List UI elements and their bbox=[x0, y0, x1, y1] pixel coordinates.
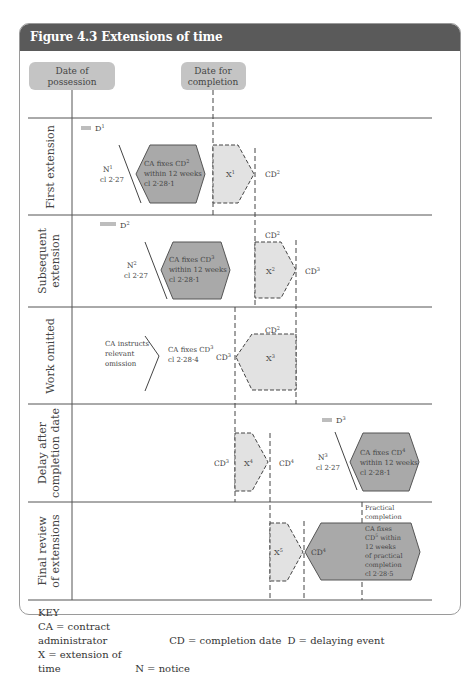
svg-text:cl 2·28·1: cl 2·28·1 bbox=[169, 276, 200, 284]
svg-text:CD5 within: CD5 within bbox=[365, 533, 401, 542]
delay-bar bbox=[81, 126, 91, 130]
row-delay-after-completion: CD3 X4 CD4 D3 N3 cl 2·27 CA fixes CD4 wi… bbox=[214, 415, 419, 491]
svg-text:cl 2·27: cl 2·27 bbox=[124, 272, 148, 280]
svg-text:completion: completion bbox=[365, 513, 402, 521]
key-ca: CA = contract administrator bbox=[38, 620, 166, 648]
row-label-subsequent-1: Subsequent bbox=[36, 227, 49, 294]
svg-text:CA fixes CD3: CA fixes CD3 bbox=[168, 344, 213, 354]
row-label-final-1: Final review bbox=[36, 516, 49, 586]
svg-text:cl 2·28·4: cl 2·28·4 bbox=[168, 356, 199, 364]
svg-text:CD3: CD3 bbox=[216, 352, 231, 362]
svg-text:D1: D1 bbox=[95, 123, 105, 133]
svg-text:relevant: relevant bbox=[105, 350, 135, 358]
row-label-delay-2: completion date bbox=[49, 408, 62, 498]
svg-text:N3: N3 bbox=[318, 452, 328, 462]
svg-text:cl 2·28·1: cl 2·28·1 bbox=[144, 180, 175, 188]
key-cd: CD = completion date bbox=[169, 634, 284, 648]
svg-text:omission: omission bbox=[105, 360, 137, 368]
svg-text:D3: D3 bbox=[336, 415, 346, 425]
svg-text:within 12 weeks: within 12 weeks bbox=[360, 459, 418, 467]
svg-text:12 weeks: 12 weeks bbox=[365, 543, 396, 551]
key-x: X = extension of time bbox=[38, 648, 132, 674]
svg-text:CD4: CD4 bbox=[279, 458, 294, 468]
svg-text:CA instructs: CA instructs bbox=[105, 340, 149, 348]
key-row-2: X = extension of time N = notice bbox=[38, 648, 384, 674]
svg-text:cl 2·28·1: cl 2·28·1 bbox=[360, 469, 391, 477]
row-label-subsequent-2: extension bbox=[49, 234, 62, 288]
row-label-omitted: Work omitted bbox=[44, 318, 57, 394]
delay-bar bbox=[322, 418, 332, 422]
svg-text:CD3: CD3 bbox=[214, 458, 229, 468]
key-legend: KEY CA = contract administrator CD = com… bbox=[38, 606, 384, 674]
svg-text:possession: possession bbox=[47, 77, 96, 87]
milestone-possession: Date of possession bbox=[29, 62, 115, 90]
row-work-omitted: CA instructs relevant omission CA fixes … bbox=[105, 325, 296, 391]
row-first-extension: D1 N1 cl 2·27 CA fixes CD2 within 12 wee… bbox=[81, 123, 280, 203]
svg-text:Date for: Date for bbox=[194, 66, 232, 76]
svg-text:of practical: of practical bbox=[365, 552, 402, 560]
svg-text:D2: D2 bbox=[120, 220, 130, 230]
svg-text:CD2: CD2 bbox=[265, 169, 280, 179]
svg-text:N2: N2 bbox=[127, 260, 137, 270]
key-title: KEY bbox=[38, 606, 384, 620]
svg-text:Practical: Practical bbox=[365, 504, 394, 512]
delay-bar bbox=[100, 222, 116, 226]
svg-text:Date of: Date of bbox=[55, 66, 89, 76]
svg-text:CD3: CD3 bbox=[305, 266, 320, 276]
svg-text:cl 2·28·5: cl 2·28·5 bbox=[365, 570, 393, 578]
svg-text:CA fixes CD2: CA fixes CD2 bbox=[144, 158, 189, 168]
svg-text:CA fixes CD4: CA fixes CD4 bbox=[360, 447, 405, 457]
key-n: N = notice bbox=[135, 662, 190, 674]
svg-text:cl 2·27: cl 2·27 bbox=[316, 464, 340, 472]
svg-text:within 12 weeks: within 12 weeks bbox=[169, 266, 227, 274]
row-labels: First extension Subsequent extension Wor… bbox=[36, 125, 62, 588]
milestone-completion: Date for completion bbox=[181, 62, 246, 90]
svg-text:N1: N1 bbox=[103, 164, 113, 174]
row-label-first: First extension bbox=[44, 125, 57, 209]
svg-text:completion: completion bbox=[188, 77, 239, 87]
svg-text:CD2: CD2 bbox=[265, 230, 280, 240]
svg-text:within 12 weeks: within 12 weeks bbox=[144, 170, 202, 178]
svg-text:CA fixes CD3: CA fixes CD3 bbox=[169, 254, 214, 264]
svg-text:CA fixes: CA fixes bbox=[365, 525, 392, 533]
row-label-final-2: of extensions bbox=[49, 514, 62, 588]
key-row-1: CA = contract administrator CD = complet… bbox=[38, 620, 384, 648]
svg-text:completion: completion bbox=[365, 561, 402, 569]
key-d: D = delaying event bbox=[287, 634, 384, 648]
svg-text:cl 2·27: cl 2·27 bbox=[100, 176, 124, 184]
row-final-review: X5 CD4 Practical completion CA fixes CD5… bbox=[270, 504, 420, 581]
row-subsequent-extension: D2 N2 cl 2·27 CA fixes CD3 within 12 wee… bbox=[100, 220, 320, 299]
extensions-diagram: Date of possession Date for completion F… bbox=[0, 0, 475, 674]
row-label-delay-1: Delay after bbox=[36, 421, 49, 484]
